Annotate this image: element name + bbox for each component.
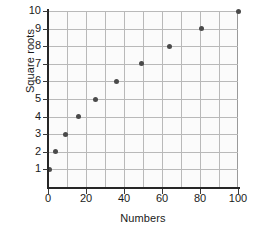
data-point [139,61,144,66]
x-tick-label: 100 [218,192,258,204]
y-tick-label: 10 [15,4,41,16]
y-tick-label: 4 [15,110,41,122]
gridline-vertical [67,11,68,187]
data-point [93,97,98,102]
y-tick-label: 6 [15,74,41,86]
y-tick-label: 3 [15,127,41,139]
y-tick-label: 8 [15,39,41,51]
x-tick-label: 20 [66,192,106,204]
y-tick-mark [43,152,48,153]
data-point [76,114,81,119]
y-tick-mark [43,46,48,47]
gridline-vertical [181,11,182,187]
y-tick-mark [43,81,48,82]
y-tick-label: 7 [15,57,41,69]
y-tick-mark [43,169,48,170]
x-tick-label: 0 [28,192,68,204]
plot-area [48,11,238,187]
y-tick-mark [43,117,48,118]
data-point [114,79,119,84]
gridline-vertical [143,11,144,187]
data-point [53,149,58,154]
y-tick-label: 2 [15,145,41,157]
gridline-vertical [200,11,201,187]
gridline-vertical [86,11,87,187]
data-point [63,132,68,137]
gridline-vertical [105,11,106,187]
x-axis-title: Numbers [48,212,238,224]
x-tick-label: 60 [142,192,182,204]
y-tick-mark [43,29,48,30]
data-point [236,9,241,14]
data-point [167,44,172,49]
data-point [199,26,204,31]
x-tick-label: 80 [180,192,220,204]
y-tick-label: 5 [15,92,41,104]
y-tick-mark [43,99,48,100]
gridline-vertical [162,11,163,187]
scatter-chart: Square roots 12345678910 020406080100 Nu… [0,0,260,235]
y-tick-mark [43,134,48,135]
x-axis-line [47,187,240,189]
y-tick-label: 1 [15,162,41,174]
y-tick-label: 9 [15,22,41,34]
y-tick-mark [43,11,48,12]
gridline-vertical [124,11,125,187]
y-tick-mark [43,64,48,65]
x-tick-label: 40 [104,192,144,204]
gridline-vertical [219,11,220,187]
